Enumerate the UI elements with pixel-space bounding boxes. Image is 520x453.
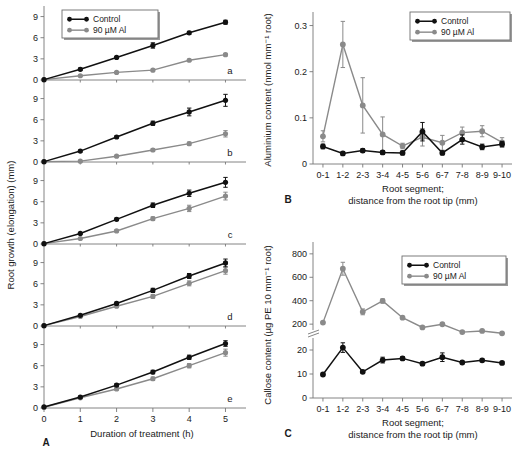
panel-b-al-point bbox=[340, 42, 346, 48]
panel-b-xtick-label: 3-4 bbox=[376, 170, 389, 180]
figure-root: 0369a0369b0369c0369d0369012345eControl90… bbox=[0, 0, 520, 453]
panel-a-al-point-e bbox=[187, 363, 192, 368]
panel-c-control-point bbox=[400, 356, 406, 362]
panel-a-al-point-a bbox=[78, 73, 83, 78]
panel-a-ytick-label-d: 3 bbox=[33, 300, 38, 310]
panel-c-xtick-label: 7-8 bbox=[456, 404, 469, 414]
panel-a-xtick-label: 0 bbox=[41, 414, 46, 424]
panel-a-control-point-d bbox=[41, 323, 46, 328]
panel-a-al-point-c bbox=[187, 206, 192, 211]
panel-b-ytick-label: 0 bbox=[302, 159, 307, 169]
panel-c-al-point bbox=[380, 298, 386, 304]
panel-b-xaxis-title-line1: Root segment; bbox=[382, 183, 444, 194]
panel-a-control-point-c bbox=[150, 203, 155, 208]
panel-a-control-point-c bbox=[114, 217, 119, 222]
panel-b-al-line bbox=[323, 44, 502, 146]
panel-b-legend-label-0: Control bbox=[441, 16, 469, 26]
panel-a-ytick-label-e: 3 bbox=[33, 382, 38, 392]
panel-a-control-point-d bbox=[114, 301, 119, 306]
panel-a-ytick-label-d: 9 bbox=[33, 258, 38, 268]
panel-a-ytick-label-c: 9 bbox=[33, 176, 38, 186]
panel-c-xtick-label: 2-3 bbox=[356, 404, 369, 414]
panel-a-control-point-b bbox=[187, 109, 192, 114]
panel-b-control-point bbox=[459, 137, 465, 143]
panel-a-control-point-b bbox=[78, 148, 83, 153]
panel-a-sub-label-b: b bbox=[227, 147, 232, 158]
panel-c-al-point bbox=[479, 328, 485, 334]
panel-a-ytick-label-b: 9 bbox=[33, 94, 38, 104]
panel-b-legend-sample-dot-1 bbox=[432, 30, 437, 35]
panel-a-control-point-e bbox=[187, 355, 192, 360]
panel-a-control-point-d bbox=[187, 273, 192, 278]
panel-a-al-point-b bbox=[114, 154, 119, 159]
panel-a-control-point-d bbox=[223, 260, 228, 265]
panel-c-xaxis-title-line1: Root segment; bbox=[382, 417, 444, 428]
panel-b-control-point bbox=[499, 141, 505, 147]
panel-a-al-line-b bbox=[44, 134, 225, 162]
panel-b-al-point bbox=[360, 102, 366, 108]
panel-a-ytick-label-c: 3 bbox=[33, 218, 38, 228]
panel-a-control-point-a bbox=[41, 77, 46, 82]
panel-a-al-point-c bbox=[78, 236, 83, 241]
panel-a-xtick-label: 3 bbox=[150, 414, 155, 424]
panel-c-control-point bbox=[499, 360, 505, 366]
panel-a-legend-label-1: 90 µM Al bbox=[93, 25, 126, 35]
panel-a-ytick-label-d: 0 bbox=[33, 321, 38, 331]
panel-a-al-point-d bbox=[187, 281, 192, 286]
panel-a-control-point-b bbox=[150, 121, 155, 126]
panel-a-control-line-e bbox=[44, 344, 225, 407]
panel-a-al-point-a bbox=[150, 68, 155, 73]
panel-a-xtick-label: 2 bbox=[114, 414, 119, 424]
panel-a-legend-sample-dot-0 bbox=[84, 17, 89, 22]
panel-a-control-point-e bbox=[78, 394, 83, 399]
panel-a-control-point-e bbox=[223, 341, 228, 346]
panel-b-xtick-label: 0-1 bbox=[316, 170, 329, 180]
panel-a-control-point-c bbox=[223, 180, 228, 185]
panel-a-xtick-label: 1 bbox=[78, 414, 83, 424]
panel-b-control-point bbox=[400, 150, 406, 156]
panel-c-al-point bbox=[340, 266, 346, 272]
panel-a-control-point-a bbox=[114, 55, 119, 60]
panel-c-al-point bbox=[420, 325, 426, 331]
panel-c-legend-sample-dot-0 bbox=[407, 263, 412, 268]
panel-a-control-point-b bbox=[114, 134, 119, 139]
panel-a-xtick-label: 5 bbox=[223, 414, 228, 424]
panel-b-legend-sample-dot-1 bbox=[415, 30, 420, 35]
panel-c-legend-label-1: 90 µM Al bbox=[433, 271, 466, 281]
panel-c-control-point bbox=[479, 357, 485, 363]
panel-c-legend-label-0: Control bbox=[433, 260, 461, 270]
panel-c-ytick-label: 0 bbox=[302, 393, 307, 403]
panel-a-letter: A bbox=[42, 437, 49, 448]
panel-a-control-point-a bbox=[150, 43, 155, 48]
panel-c-ytick-label: 600 bbox=[292, 272, 307, 282]
panel-a-al-point-d bbox=[150, 294, 155, 299]
panel-b-xtick-label: 4-5 bbox=[396, 170, 409, 180]
panel-b-letter: B bbox=[284, 194, 291, 205]
panel-c-yaxis-title: Callose content (µg PE 10 mm⁻¹ root) bbox=[262, 245, 273, 404]
panel-c-letter: C bbox=[284, 428, 291, 439]
panel-a-al-point-e bbox=[150, 376, 155, 381]
panel-b-xtick-label: 5-6 bbox=[416, 170, 429, 180]
panel-b-control-point bbox=[420, 129, 426, 135]
panel-a-ytick-label-c: 6 bbox=[33, 197, 38, 207]
panel-a-sub-label-d: d bbox=[227, 311, 232, 322]
panel-c-al-point bbox=[459, 329, 465, 335]
panel-a-control-line-d bbox=[44, 263, 225, 326]
panel-a-control-point-a bbox=[187, 30, 192, 35]
panel-a-control-point-d bbox=[78, 313, 83, 318]
panel-a-al-point-a bbox=[114, 70, 119, 75]
panel-c-legend-sample-dot-1 bbox=[407, 274, 412, 279]
panel-c-legend-sample-dot-0 bbox=[424, 263, 429, 268]
panel-a-ytick-label-b: 6 bbox=[33, 115, 38, 125]
panel-c-control-point bbox=[340, 345, 346, 351]
panel-b-legend-sample-dot-0 bbox=[415, 19, 420, 24]
panel-c-control-point bbox=[380, 357, 386, 363]
panel-b-xaxis-title-line2: distance from the root tip (mm) bbox=[348, 195, 477, 206]
panel-a-ytick-label-c: 0 bbox=[33, 239, 38, 249]
panel-c-al-point bbox=[320, 320, 326, 326]
panel-b-xtick-label: 2-3 bbox=[356, 170, 369, 180]
panel-a-control-point-a bbox=[78, 67, 83, 72]
panel-a-control-point-b bbox=[41, 159, 46, 164]
panel-a-ytick-label-e: 0 bbox=[33, 403, 38, 413]
panel-a-control-point-e bbox=[150, 369, 155, 374]
